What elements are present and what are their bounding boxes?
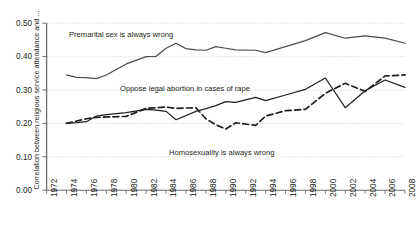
annotation-homosexuality: Homosexuality is always wrong [169, 148, 275, 157]
x-tick-label-2002: 2002 [349, 178, 358, 196]
x-tick-label-1978: 1978 [110, 178, 119, 196]
x-tick-label-2006: 2006 [388, 178, 397, 196]
x-tick-label-1982: 1982 [150, 178, 159, 196]
x-tick-label-2008: 2008 [408, 178, 417, 196]
data-series-layer [67, 33, 405, 130]
x-tick-label-1990: 1990 [229, 178, 238, 196]
x-tick-label-2004: 2004 [369, 178, 378, 196]
x-tick-label-1974: 1974 [70, 178, 79, 196]
x-tick-label-1998: 1998 [309, 178, 318, 196]
axis-lines [42, 23, 405, 194]
x-tick-label-1992: 1992 [249, 178, 258, 196]
series-line-0 [67, 33, 405, 79]
x-tick-label-1996: 1996 [289, 178, 298, 196]
x-tick-label-1972: 1972 [50, 178, 59, 196]
x-tick-label-1980: 1980 [130, 178, 139, 196]
annotation-premarital-sex: Premarital sex is always wrong [69, 30, 173, 39]
x-tick-label-2000: 2000 [329, 178, 338, 196]
x-tick-label-1984: 1984 [169, 178, 178, 196]
x-tick-label-1976: 1976 [90, 178, 99, 196]
annotation-abortion-rape: Oppose legal abortion in cases of rape [120, 84, 250, 93]
x-tick-label-1988: 1988 [209, 178, 218, 196]
x-tick-label-1986: 1986 [189, 178, 198, 196]
x-tick-label-1994: 1994 [269, 178, 278, 196]
